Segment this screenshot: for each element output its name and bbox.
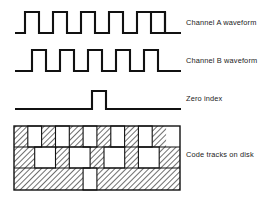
- code-track-cell-white: [56, 126, 70, 147]
- label-channel-b-waveform: Channel B waveform: [186, 56, 257, 65]
- code-track-cell-white: [104, 147, 125, 168]
- code-track-cell-white: [83, 126, 97, 147]
- label-zero-index: Zero index: [186, 94, 222, 103]
- waveform-channel-a-path: [15, 12, 181, 33]
- waveform-channel-b-path: [15, 50, 181, 71]
- waveform-channel-a: [15, 12, 181, 33]
- code-track-cell-white: [83, 168, 97, 190]
- waveform-zero-index-path: [15, 91, 181, 109]
- encoder-diagram-figure: Channel A waveform Channel B waveform Ze…: [0, 0, 279, 199]
- label-channel-a-waveform: Channel A waveform: [186, 18, 257, 27]
- code-track-cell-white: [111, 126, 125, 147]
- code-tracks-grid: [14, 126, 180, 190]
- code-track-cell-white: [28, 126, 42, 147]
- code-track-cell-white: [69, 147, 90, 168]
- code-track-cell-white: [35, 147, 56, 168]
- diagram-canvas: [0, 0, 279, 199]
- code-track-row-index-windows: [83, 168, 97, 190]
- code-track-cell-white: [166, 126, 180, 147]
- code-track-cell-white: [138, 147, 159, 168]
- waveform-channel-a-last-pulse: [151, 12, 181, 33]
- waveform-zero-index: [15, 91, 181, 109]
- label-code-tracks-on-disk: Code tracks on disk: [186, 150, 254, 159]
- waveform-channel-b: [15, 50, 181, 71]
- code-track-cell-white: [138, 126, 152, 147]
